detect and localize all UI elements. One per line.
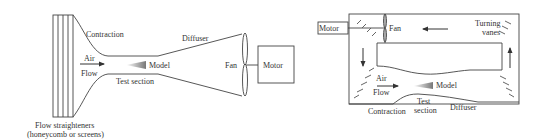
turning-vanes-top-right xyxy=(499,21,511,34)
closed-label-model: Model xyxy=(436,81,458,90)
closed-label-air: Air xyxy=(376,74,387,83)
closed-label-turning-2: vanes xyxy=(482,28,500,37)
label-diffuser: Diffuser xyxy=(182,34,209,43)
label-test-section: Test section xyxy=(116,77,154,86)
model-shape xyxy=(126,61,146,69)
closed-label-diffuser: Diffuser xyxy=(450,103,477,112)
closed-label-fan: Fan xyxy=(389,24,401,33)
label-model: Model xyxy=(149,61,171,70)
diffuser-wall-bottom xyxy=(158,74,242,96)
label-contraction: Contraction xyxy=(86,30,124,39)
closed-label-flow: Flow xyxy=(373,88,390,97)
turning-vanes-bottom-right xyxy=(500,76,514,97)
flow-straighteners xyxy=(53,15,73,117)
fan-icon xyxy=(243,33,248,96)
closed-label-test-1: Test xyxy=(417,97,431,106)
closed-model-shape xyxy=(413,82,433,89)
label-flow: Flow xyxy=(81,69,98,78)
closed-label-test-2: section xyxy=(414,106,437,115)
inner-wall xyxy=(377,43,502,74)
label-motor: Motor xyxy=(263,61,283,70)
closed-label-motor: Motor xyxy=(319,24,339,33)
turning-vanes-bottom-left xyxy=(354,68,374,98)
wind-tunnel-diagram: Contraction Air Flow Model Test section … xyxy=(0,0,545,139)
label-straighteners-1: Flow straighteners xyxy=(35,121,94,130)
label-straighteners-2: (honeycomb or screens) xyxy=(27,130,104,139)
label-air: Air xyxy=(84,54,95,63)
closed-fan-icon xyxy=(384,14,387,43)
closed-label-contraction: Contraction xyxy=(368,107,406,116)
label-fan: Fan xyxy=(225,61,237,70)
closed-label-turning-1: Turning xyxy=(475,19,501,28)
